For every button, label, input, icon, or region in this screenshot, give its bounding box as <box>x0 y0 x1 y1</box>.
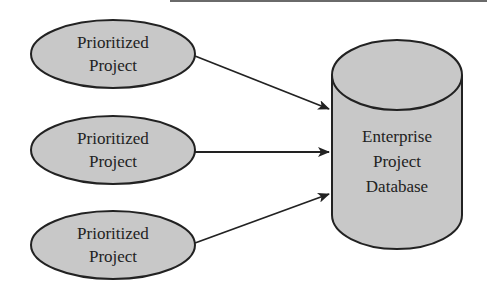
label-line: Project <box>31 54 195 77</box>
label-line: Database <box>332 174 462 199</box>
label-line: Project <box>31 245 195 268</box>
source-node-3-label: Prioritized Project <box>31 222 195 268</box>
label-line: Prioritized <box>31 127 195 150</box>
label-line: Project <box>31 150 195 173</box>
label-line: Prioritized <box>31 31 195 54</box>
source-node-1-label: Prioritized Project <box>31 31 195 77</box>
label-line: Project <box>332 149 462 174</box>
arrow-1 <box>195 56 329 109</box>
label-line: Prioritized <box>31 222 195 245</box>
arrow-3 <box>195 194 329 243</box>
label-line: Enterprise <box>332 124 462 149</box>
database-label: Enterprise Project Database <box>332 124 462 199</box>
source-node-2-label: Prioritized Project <box>31 127 195 173</box>
